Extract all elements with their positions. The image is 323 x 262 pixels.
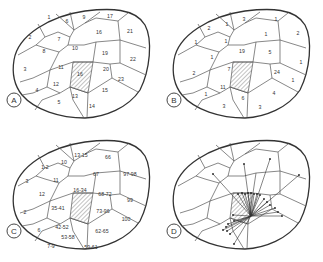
ray-endpoint-dot xyxy=(232,214,234,216)
region-label: 2 xyxy=(193,70,196,76)
region-label: 11 xyxy=(58,64,63,70)
region-label: 12 xyxy=(53,81,59,87)
ray-endpoint-dot xyxy=(298,174,300,176)
region-label: 8 xyxy=(43,48,46,54)
ray-endpoint-dot xyxy=(237,193,239,195)
region-label: 1 xyxy=(265,31,268,37)
panel-label-a: A xyxy=(11,96,17,105)
ray-endpoint-dot xyxy=(226,230,228,232)
ray-endpoint-dot xyxy=(269,204,271,206)
region-label: 3 xyxy=(26,178,29,184)
region-label: 11 xyxy=(53,177,58,183)
region-label: 100 xyxy=(122,216,131,222)
region-label: 11 xyxy=(220,84,225,90)
region-label: 15 xyxy=(102,87,108,93)
panel-b: 2131111211951272411116433 B xyxy=(167,9,310,118)
ray-endpoint-dot xyxy=(263,198,265,200)
region-label: 1 xyxy=(226,21,229,27)
ray-endpoint-dot xyxy=(250,192,252,194)
ray-endpoint-dot xyxy=(281,215,283,217)
region-label: 13-15 xyxy=(74,152,87,158)
region-label: 21 xyxy=(127,28,133,34)
region-label: 1 xyxy=(225,38,228,44)
region-label: 1 xyxy=(275,16,278,22)
ray-endpoint-dot xyxy=(269,158,271,160)
region-label: 6 xyxy=(242,95,245,101)
region-label: 19 xyxy=(102,50,108,56)
region-label: 1 xyxy=(300,59,303,65)
direction-rays xyxy=(212,158,300,245)
ray-endpoint-dot xyxy=(266,201,268,203)
region-label: 1-2 xyxy=(41,164,49,170)
region-label: 17 xyxy=(107,13,113,19)
region-label: 67 xyxy=(93,171,99,177)
panel-d: D xyxy=(167,140,310,249)
region-label: 2 xyxy=(24,209,27,215)
region-label: 68-72 xyxy=(98,191,111,197)
diagram-canvas: 1691727162181019223111620231241315514 A … xyxy=(0,0,323,262)
region-label: 1 xyxy=(292,77,295,83)
region-label: 6 xyxy=(38,227,41,233)
region-label: 4 xyxy=(36,87,39,93)
region-label: 3 xyxy=(223,103,226,109)
region-label: 53-58 xyxy=(61,234,74,240)
region-label: 4 xyxy=(273,90,276,96)
region-label: 14 xyxy=(89,103,95,109)
ray-endpoint-dot xyxy=(233,243,235,245)
region-label: 1 xyxy=(211,54,214,60)
region-label: 7-9 xyxy=(47,243,55,249)
region-label: 2 xyxy=(29,34,32,40)
ray-endpoint-dot xyxy=(259,194,261,196)
region-label: 5 xyxy=(58,99,61,105)
region-label: 3 xyxy=(259,104,262,110)
ray-endpoint-dot xyxy=(225,226,227,228)
region-label: 6 xyxy=(66,18,69,24)
region-label: 3 xyxy=(243,16,246,22)
ray-endpoint-dot xyxy=(241,192,243,194)
region-label: 7 xyxy=(228,66,231,72)
region-label: 2 xyxy=(297,30,300,36)
ray-endpoint-dot xyxy=(253,193,255,195)
region-label: 73-96 xyxy=(96,208,109,214)
panel-label-c: C xyxy=(11,227,17,236)
region-label: 19 xyxy=(239,48,245,54)
ray-endpoint-dot xyxy=(256,193,258,195)
region-label: 1 xyxy=(195,39,198,45)
region-label: 16 xyxy=(96,29,102,35)
ray-endpoint-dot xyxy=(227,223,229,225)
ray-endpoint-dot xyxy=(274,207,276,209)
region-label: 10 xyxy=(72,45,78,51)
ray-endpoint-dot xyxy=(247,192,249,194)
region-label: 99 xyxy=(127,197,133,203)
panel-label-d: D xyxy=(171,227,177,236)
region-label: 2 xyxy=(208,25,211,31)
ray-endpoint-dot xyxy=(277,211,279,213)
ray-endpoint-dot xyxy=(243,163,245,165)
region-label: 23 xyxy=(118,76,124,82)
region-label: 62-65 xyxy=(95,228,108,234)
panel-c: 1-21013-15663116797-981216-3468-7299235-… xyxy=(7,140,150,250)
ray-endpoint-dot xyxy=(229,233,231,235)
region-label: 16 xyxy=(77,71,83,77)
ray-endpoint-dot xyxy=(212,173,214,175)
region-label: 20 xyxy=(103,66,109,72)
region-label: 5 xyxy=(269,49,272,55)
region-label: 12 xyxy=(39,191,45,197)
region-label: 10 xyxy=(61,159,67,165)
ray-endpoint-dot xyxy=(244,193,246,195)
region-label: 97-98 xyxy=(123,171,136,177)
region-label: 24 xyxy=(274,69,280,75)
region-label: 66 xyxy=(105,154,111,160)
panel-label-b: B xyxy=(171,96,176,105)
region-label: 13 xyxy=(72,93,78,99)
region-label: 22 xyxy=(130,56,136,62)
region-label: 9 xyxy=(83,14,86,20)
region-label: 1 xyxy=(48,14,51,20)
region-label: 42-52 xyxy=(55,224,68,230)
region-label: 35-41 xyxy=(51,205,64,211)
region-label: 16-34 xyxy=(73,187,86,193)
region-label: 59-61 xyxy=(84,244,97,250)
region-label: 7 xyxy=(58,36,61,42)
region-label: 3 xyxy=(24,66,27,72)
panel-a: 1691727162181019223111620231241315514 A xyxy=(7,9,150,118)
